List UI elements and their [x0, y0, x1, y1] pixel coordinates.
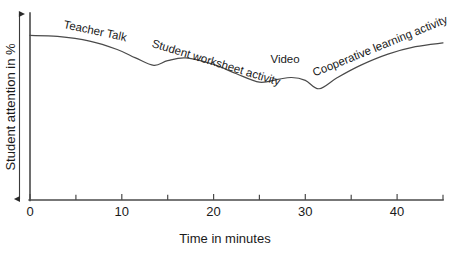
annotation-teacher-talk: Teacher Talk: [63, 18, 129, 43]
x-tick-label-10: 10: [115, 204, 129, 219]
x-axis-tick-labels: 0 10 20 30 40: [26, 204, 404, 219]
x-axis-ticks: [30, 194, 443, 200]
annotation-video: Video: [270, 53, 299, 65]
attention-curve-chart: Student attention in % 0 10 20 30 40 Tim…: [0, 0, 455, 257]
annotation-student-worksheet-activity: Student worksheet activity: [151, 37, 283, 88]
x-axis-title: Time in minutes: [179, 231, 271, 246]
y-axis-title: Student attention in %: [3, 43, 18, 171]
x-tick-label-20: 20: [206, 204, 220, 219]
annotation-cooperative-learning-activity: Cooperative learning activity: [311, 13, 450, 78]
chart-container: Student attention in % 0 10 20 30 40 Tim…: [0, 0, 455, 257]
x-tick-label-0: 0: [26, 204, 33, 219]
x-tick-label-30: 30: [298, 204, 312, 219]
x-tick-label-40: 40: [390, 204, 404, 219]
